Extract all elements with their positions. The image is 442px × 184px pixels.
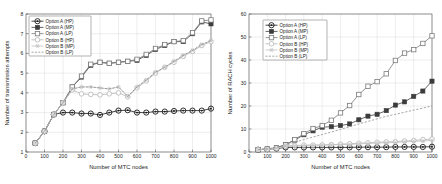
marker-filled-square [421, 89, 425, 93]
marker-dot [413, 146, 415, 148]
marker-open-square [116, 60, 120, 64]
data-point-17 [190, 31, 194, 35]
data-point-11 [135, 57, 139, 61]
marker-open-square [302, 131, 306, 135]
data-point-13 [375, 112, 379, 116]
y-axis-title: Number of RACH cycles [227, 51, 233, 114]
x-tick-label: 0 [25, 153, 28, 159]
x-tick-label: 500 [336, 153, 345, 159]
figure-container: 0100200300400500600700800900100012345678… [0, 0, 442, 184]
marker-open-circle [88, 92, 93, 97]
data-point-12 [366, 114, 370, 118]
data-point-15 [172, 39, 176, 43]
marker-dot [404, 146, 406, 148]
y-tick-label: 6 [21, 50, 24, 56]
marker-open-square [163, 42, 167, 46]
marker-open-square [153, 46, 157, 50]
data-point-17 [412, 47, 416, 51]
data-point-18 [200, 19, 204, 23]
marker-open-square [35, 31, 39, 35]
data-point-5 [79, 74, 83, 78]
y-tick-label: 30 [241, 80, 247, 86]
marker-open-square [393, 58, 397, 62]
data-point-12 [366, 84, 370, 88]
marker-open-circle [79, 92, 84, 97]
data-point-17 [412, 94, 416, 98]
marker-open-square [98, 60, 102, 64]
marker-open-square [126, 59, 130, 63]
data-point-legend-3 [35, 38, 40, 43]
marker-open-square [384, 72, 388, 76]
marker-open-square [209, 18, 213, 22]
x-tick-label: 1000 [205, 153, 216, 159]
data-point-13 [153, 46, 157, 50]
marker-open-circle [98, 93, 103, 98]
data-point-5 [79, 92, 84, 97]
marker-open-square [79, 74, 83, 78]
legend-label: Option B (HP) [46, 38, 75, 43]
marker-open-square [311, 126, 315, 130]
y-tick-label: 60 [241, 11, 247, 17]
data-point-12 [144, 52, 148, 56]
right-chart-svg: 0100200300400500600700800900100001020304… [221, 0, 442, 184]
marker-dot [62, 112, 64, 114]
data-point-13 [375, 79, 379, 83]
marker-open-square [172, 39, 176, 43]
data-point-10 [348, 122, 352, 126]
data-point-8 [107, 92, 112, 97]
marker-dot [99, 114, 101, 116]
data-point-6 [88, 92, 93, 97]
x-tick-label: 200 [59, 153, 68, 159]
marker-filled-square [366, 114, 370, 118]
y-tick-label: 10 [241, 126, 247, 132]
data-point-legend-1 [269, 29, 273, 33]
data-point-15 [393, 103, 397, 107]
data-point-14 [384, 109, 388, 113]
data-point-11 [357, 92, 361, 96]
marker-open-square [357, 92, 361, 96]
x-tick-label: 800 [391, 153, 400, 159]
marker-dot [182, 110, 184, 112]
x-tick-label: 400 [96, 153, 105, 159]
marker-filled-square [35, 25, 39, 29]
data-point-16 [402, 51, 406, 55]
marker-dot [136, 112, 138, 114]
x-tick-label: 0 [248, 153, 251, 159]
marker-dot [155, 111, 157, 113]
marker-open-square [135, 57, 139, 61]
x-tick-label: 900 [410, 153, 419, 159]
x-tick-label: 100 [40, 153, 49, 159]
data-point-19 [209, 18, 213, 22]
data-point-7 [98, 60, 102, 64]
marker-dot [108, 112, 110, 114]
series-line [35, 109, 211, 144]
marker-dot [349, 147, 351, 149]
marker-open-square [190, 31, 194, 35]
data-point-14 [384, 72, 388, 76]
y-tick-label: 50 [241, 34, 247, 40]
x-tick-label: 400 [318, 153, 327, 159]
legend-label: Option B (LP) [46, 50, 74, 55]
marker-filled-square [412, 94, 416, 98]
legend-label: Option B (LP) [280, 54, 308, 59]
x-tick-label: 800 [170, 153, 179, 159]
data-point-11 [357, 118, 361, 122]
legend-label: Option A (HP) [280, 23, 309, 28]
marker-dot [395, 146, 397, 148]
y-tick-label: 5 [21, 70, 24, 76]
marker-dot [90, 113, 92, 115]
marker-dot [173, 110, 175, 112]
data-point-legend-2 [35, 31, 39, 35]
data-point-10 [126, 59, 130, 63]
marker-open-square [347, 103, 351, 107]
data-point-14 [163, 42, 167, 46]
data-point-18 [421, 89, 425, 93]
marker-filled-square [329, 125, 333, 129]
chart-panel-right: 0100200300400500600700800900100001020304… [221, 0, 442, 184]
y-tick-label: 2 [21, 129, 24, 135]
x-tick-label: 500 [114, 153, 123, 159]
marker-filled-square [338, 123, 342, 127]
data-point-7 [98, 93, 103, 98]
marker-open-square [329, 118, 333, 122]
marker-dot [358, 146, 360, 148]
